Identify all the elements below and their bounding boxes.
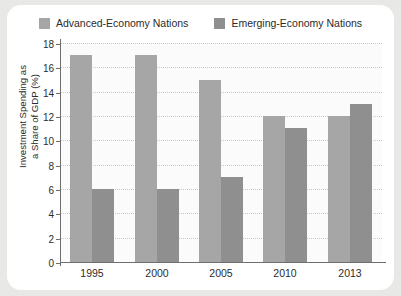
x-axis-tick-label: 1995 bbox=[80, 267, 103, 279]
legend-label-advanced: Advanced-Economy Nations bbox=[56, 18, 189, 29]
plot-area: 024681012141618 19952000200520102013 bbox=[60, 43, 382, 262]
legend-swatch-emerging bbox=[214, 18, 225, 29]
bar-emerging bbox=[221, 177, 243, 262]
y-axis-title-line1: Investment Spending as bbox=[17, 22, 29, 212]
chart-card: Advanced-Economy Nations Emerging-Econom… bbox=[7, 5, 394, 290]
legend-label-emerging: Emerging-Economy Nations bbox=[231, 18, 362, 29]
bar-emerging bbox=[92, 189, 114, 262]
x-axis-tick-label: 2010 bbox=[273, 267, 296, 279]
y-axis-title: Investment Spending as a Share of GDP (%… bbox=[17, 22, 40, 212]
y-axis-tick-label: 2 bbox=[48, 233, 54, 244]
bar-group bbox=[263, 43, 307, 262]
bar-emerging bbox=[157, 189, 179, 262]
bar-advanced bbox=[328, 116, 350, 262]
legend-swatch-advanced bbox=[39, 18, 50, 29]
bar-group bbox=[328, 43, 372, 262]
bar-groups bbox=[60, 43, 382, 262]
y-axis-tick-label: 10 bbox=[43, 136, 54, 147]
bar-emerging bbox=[350, 104, 372, 262]
y-axis-tick-label: 18 bbox=[43, 39, 54, 50]
y-axis-tick-label: 16 bbox=[43, 63, 54, 74]
chart-legend: Advanced-Economy Nations Emerging-Econom… bbox=[7, 18, 394, 29]
x-axis-tick-label: 2013 bbox=[338, 267, 361, 279]
legend-entry-advanced: Advanced-Economy Nations bbox=[39, 18, 189, 29]
y-axis-tick-label: 14 bbox=[43, 87, 54, 98]
y-axis-tick-label: 4 bbox=[48, 209, 54, 220]
bar-group bbox=[135, 43, 179, 262]
x-axis-tick-label: 2000 bbox=[145, 267, 168, 279]
y-axis-tick-label: 6 bbox=[48, 185, 54, 196]
bar-advanced bbox=[70, 55, 92, 262]
legend-entry-emerging: Emerging-Economy Nations bbox=[214, 18, 362, 29]
bar-advanced bbox=[135, 55, 157, 262]
y-axis-tick-label: 8 bbox=[48, 160, 54, 171]
y-axis-tick-label: 12 bbox=[43, 112, 54, 123]
bar-group bbox=[70, 43, 114, 262]
y-axis-title-line2: a Share of GDP (%) bbox=[28, 22, 40, 212]
bar-advanced bbox=[199, 80, 221, 263]
x-axis-tick-label: 2005 bbox=[209, 267, 232, 279]
y-axis-tick-label: 0 bbox=[48, 258, 54, 269]
x-axis-line bbox=[60, 262, 386, 263]
bar-group bbox=[199, 43, 243, 262]
y-axis-line bbox=[60, 39, 61, 266]
bar-emerging bbox=[285, 128, 307, 262]
bar-advanced bbox=[263, 116, 285, 262]
